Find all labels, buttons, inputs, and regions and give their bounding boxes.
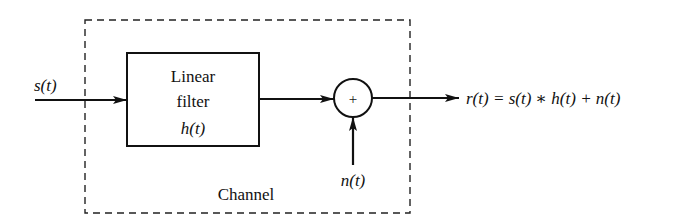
noise-signal-label: n(t) (341, 171, 366, 190)
output-equation: r(t) = s(t) ∗ h(t) + n(t) (466, 89, 621, 108)
filter-label-line3: h(t) (181, 119, 206, 138)
input-signal-label: s(t) (34, 76, 57, 95)
filter-label-line1: Linear (171, 67, 216, 86)
filter-label-line2: filter (176, 92, 209, 111)
channel-label: Channel (218, 185, 275, 204)
summing-plus-symbol: + (349, 91, 357, 107)
channel-block-diagram: s(t) Linear filter h(t) + n(t) r(t) = s(… (0, 0, 689, 222)
